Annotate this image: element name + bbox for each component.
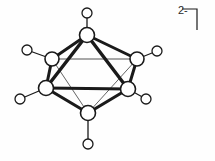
vertex-front-left — [39, 81, 54, 96]
terminal-atom-front-left — [15, 94, 25, 104]
molecular-structure-diagram — [0, 0, 215, 161]
charge-label: 2- — [178, 5, 188, 16]
terminal-atom-front-right — [141, 94, 151, 104]
charge-value: 2- — [178, 4, 188, 16]
terminal-atom-top — [82, 8, 92, 18]
edge-bottom-back-left — [52, 59, 88, 113]
vertex-back-left — [45, 52, 59, 66]
edge-top-front-right — [87, 35, 128, 89]
vertex-front-right — [121, 82, 136, 97]
terminal-atom-bottom — [83, 139, 93, 149]
figure-root: 2- — [0, 0, 215, 161]
vertex-top — [80, 28, 95, 43]
edge-front-left-front-right — [46, 88, 128, 89]
cluster-vertices-group — [39, 28, 145, 121]
vertex-back-right — [130, 52, 144, 66]
vertex-bottom — [81, 106, 96, 121]
terminal-atom-back-right — [152, 46, 162, 56]
terminal-atom-back-left — [22, 45, 32, 55]
